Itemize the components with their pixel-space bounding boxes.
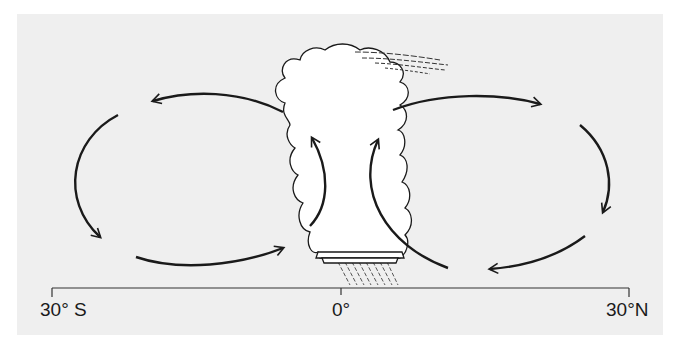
upper-flow-north-arrow	[393, 96, 540, 110]
sinking-south-arrow	[75, 115, 118, 237]
surface-return-north-arrow	[490, 236, 585, 269]
axis-label-30n: 30°N	[606, 300, 648, 319]
hadley-cell-diagram	[0, 0, 687, 348]
latitude-axis	[52, 288, 629, 297]
axis-label-equator: 0°	[332, 300, 350, 319]
upper-flow-south-arrow	[153, 94, 283, 112]
sinking-north-arrow	[580, 125, 609, 212]
northern-circulation-cell	[370, 96, 609, 269]
axis-label-30s: 30° S	[40, 300, 87, 319]
rain-icon	[338, 262, 398, 285]
surface-return-south-arrow	[136, 248, 283, 265]
